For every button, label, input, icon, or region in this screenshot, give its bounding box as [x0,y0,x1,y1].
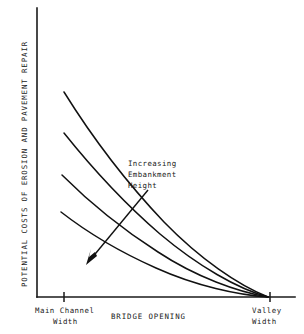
chart-figure: POTENTIAL COSTS OF EROSION AND PAVEMENT … [0,0,304,334]
chart-svg: POTENTIAL COSTS OF EROSION AND PAVEMENT … [0,0,304,334]
x-tick-label-valley-line2: Width [252,317,277,326]
annotation-label-line3: Height [128,181,157,190]
x-tick-label-main-channel-line1: Main Channel [35,306,94,315]
y-axis-label: POTENTIAL COSTS OF EROSION AND PAVEMENT … [20,41,29,287]
x-axis-label: BRIDGE OPENING [111,312,186,321]
x-tick-label-valley-line1: Valley [252,306,282,315]
annotation-label-line1: Increasing [128,159,177,168]
x-tick-label-main-channel-line2: Width [53,317,78,326]
annotation-label-line2: Embankment [128,170,177,179]
